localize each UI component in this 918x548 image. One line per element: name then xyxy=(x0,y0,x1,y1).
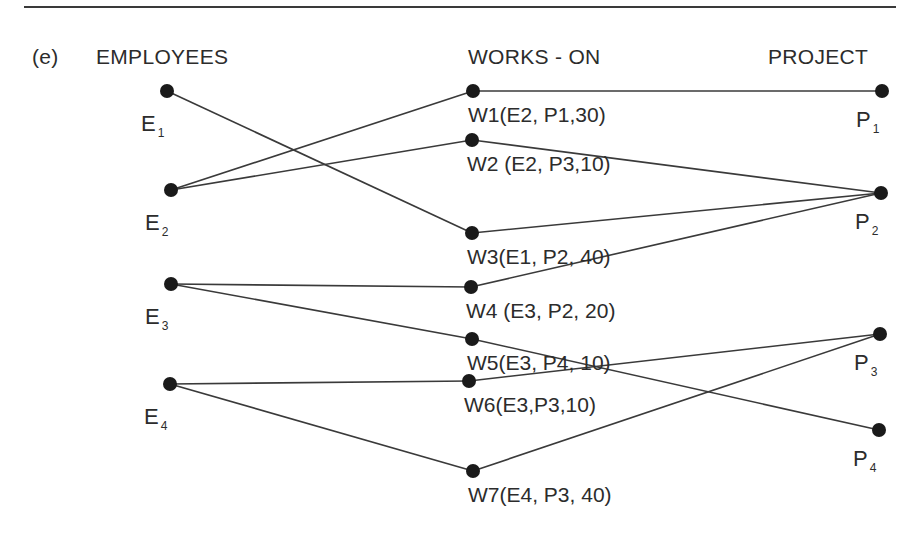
column-header-works-on: WORKS - ON xyxy=(468,46,601,67)
node-p3 xyxy=(873,327,887,341)
nodes-layer xyxy=(160,84,889,478)
node-e4 xyxy=(163,377,177,391)
column-header-employees: EMPLOYEES xyxy=(96,46,228,67)
project-label-p1: P1 xyxy=(856,109,879,135)
employee-label-e4: E4 xyxy=(144,406,167,432)
node-p4 xyxy=(872,423,886,437)
employee-label-e3: E3 xyxy=(145,306,168,332)
works-on-label-w5: W5(E3, P4, 10) xyxy=(467,352,611,373)
project-label-p2: P2 xyxy=(855,211,878,237)
column-header-project: PROJECT xyxy=(768,46,868,67)
works-on-label-w7: W7(E4, P3, 40) xyxy=(468,484,612,505)
node-e1 xyxy=(160,84,174,98)
works-on-relationship-diagram: (e) EMPLOYEES WORKS - ON PROJECT E1E2E3E… xyxy=(0,0,918,548)
node-p1 xyxy=(875,84,889,98)
employee-label-e2: E2 xyxy=(145,212,168,238)
edge-e2-w2 xyxy=(171,140,472,190)
node-w6 xyxy=(462,374,476,388)
node-p2 xyxy=(874,186,888,200)
works-on-label-w1: W1(E2, P1,30) xyxy=(468,104,606,125)
node-w3 xyxy=(465,226,479,240)
node-w4 xyxy=(464,280,478,294)
edge-e2-w1 xyxy=(171,91,473,190)
edge-w4-p2 xyxy=(471,193,881,287)
node-w2 xyxy=(465,133,479,147)
edge-e4-w7 xyxy=(170,384,473,471)
node-e3 xyxy=(164,277,178,291)
node-w7 xyxy=(466,464,480,478)
edge-w3-p2 xyxy=(472,193,881,233)
edge-e3-w5 xyxy=(171,284,472,339)
project-label-p3: P3 xyxy=(854,352,877,378)
node-w5 xyxy=(465,332,479,346)
edge-e3-w4 xyxy=(171,284,471,287)
works-on-label-w2: W2 (E2, P3,10) xyxy=(467,153,611,174)
employee-label-e1: E1 xyxy=(141,113,164,139)
works-on-label-w6: W6(E3,P3,10) xyxy=(464,394,596,415)
edge-e1-w3 xyxy=(167,91,472,233)
node-w1 xyxy=(466,84,480,98)
works-on-label-w3: W3(E1, P2, 40) xyxy=(467,246,611,267)
diagram-canvas xyxy=(0,0,918,548)
works-on-label-w4: W4 (E3, P2, 20) xyxy=(466,300,615,321)
node-e2 xyxy=(164,183,178,197)
project-label-p4: P4 xyxy=(853,448,876,474)
part-label: (e) xyxy=(32,46,59,67)
edge-e4-w6 xyxy=(170,381,469,384)
